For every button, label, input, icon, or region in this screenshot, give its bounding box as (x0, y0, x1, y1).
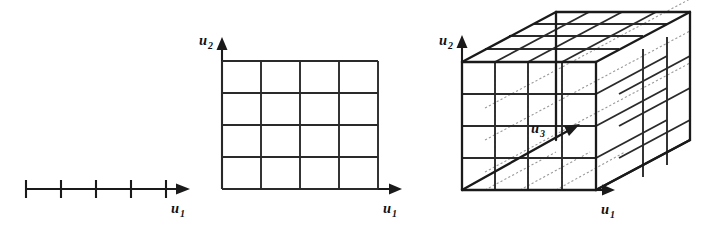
cube-outline (462, 12, 690, 190)
u2-axis-label-3d: u 2 (439, 32, 453, 51)
u2-label-base: u (439, 32, 447, 48)
u2-label-subscript: 2 (447, 40, 453, 51)
cube-top-face-grid (485, 12, 667, 62)
u3-axis-label-3d: u 3 (531, 120, 545, 139)
u1-arrow-head (602, 185, 615, 196)
u3-arrow-head (564, 124, 580, 136)
u1-label-base: u (601, 201, 609, 217)
u3-label-subscript: 3 (539, 128, 545, 139)
panel-three-dimensional-grid: u 1 u 2 u 3 (0, 0, 709, 230)
u3-label-base: u (531, 120, 539, 136)
u2-arrow-head (457, 35, 468, 48)
u1-label-subscript: 1 (610, 209, 615, 220)
u1-axis-label-3d: u 1 (601, 201, 615, 220)
figure-container: u 1 u 1 (0, 0, 709, 230)
u3-diagonal-line (462, 128, 573, 190)
